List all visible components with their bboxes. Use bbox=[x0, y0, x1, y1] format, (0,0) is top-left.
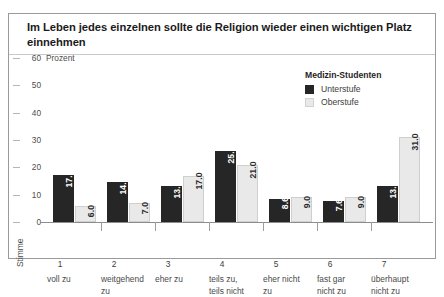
bar-value-label: 13.0 bbox=[172, 182, 182, 199]
legend-label-unterstufe: Unterstufe bbox=[321, 84, 361, 94]
bar-value-label: 17.3 bbox=[64, 170, 74, 187]
bar-value-label: 6.0 bbox=[86, 204, 96, 216]
bar-unterstufe-5[interactable]: 8.6 bbox=[269, 199, 290, 223]
x-axis-category-label: weitgehend zu bbox=[101, 273, 155, 297]
bar-value-label: 25.9 bbox=[226, 147, 236, 164]
x-axis-labels: Stimme 1voll zu2weitgehend zu3eher zu4te… bbox=[9, 259, 437, 260]
legend-item-oberstufe: Oberstufe bbox=[305, 97, 431, 107]
chart-title-block: Im Leben jedes einzelnen sollte die Reli… bbox=[9, 14, 435, 55]
x-axis-category-number: 7 bbox=[371, 259, 397, 270]
bar-oberstufe-2[interactable]: 7.0 bbox=[129, 203, 150, 222]
y-axis-tick-mark bbox=[13, 85, 20, 86]
cropped-caption-above-figure bbox=[40, 1, 300, 8]
bar-oberstufe-1[interactable]: 6.0 bbox=[75, 206, 96, 222]
x-axis-category-number: 6 bbox=[317, 259, 343, 270]
x-axis-category-1: 1voll zu bbox=[47, 259, 101, 285]
bar-unterstufe-1[interactable]: 17.3 bbox=[53, 175, 74, 222]
plot-area: 0102030405060 Prozent 17.36.014.67.013.0… bbox=[9, 58, 437, 259]
x-axis-category-4: 4teils zu, teils nicht bbox=[209, 259, 263, 297]
x-axis-separator-tick bbox=[317, 222, 318, 231]
x-axis-separator-tick bbox=[209, 222, 210, 231]
x-axis-separator-tick bbox=[371, 222, 372, 231]
bar-value-label: 14.6 bbox=[118, 178, 128, 195]
bar-group: 25.921.0 bbox=[215, 58, 258, 222]
page-title: Im Leben jedes einzelnen sollte die Reli… bbox=[27, 20, 421, 49]
chart-legend: Medizin-Studenten Unterstufe Oberstufe bbox=[305, 70, 431, 110]
x-axis-category-2: 2weitgehend zu bbox=[101, 259, 155, 297]
x-axis-category-label: fast gar nicht zu bbox=[317, 273, 371, 297]
x-axis-category-label: teils zu, teils nicht bbox=[209, 273, 263, 297]
bar-group: 13.017.0 bbox=[161, 58, 204, 222]
bar-value-label: 31.0 bbox=[410, 134, 420, 151]
bar-value-label: 13.0 bbox=[388, 182, 398, 199]
bar-unterstufe-3[interactable]: 13.0 bbox=[161, 186, 182, 222]
bar-unterstufe-2[interactable]: 14.6 bbox=[107, 182, 128, 222]
legend-label-oberstufe: Oberstufe bbox=[321, 97, 359, 107]
bar-value-label: 7.6 bbox=[334, 199, 344, 211]
x-axis-category-number: 4 bbox=[209, 259, 235, 270]
bar-oberstufe-6[interactable]: 9.0 bbox=[345, 197, 366, 222]
bar-oberstufe-7[interactable]: 31.0 bbox=[399, 137, 420, 222]
x-axis-baseline bbox=[41, 222, 433, 223]
x-axis-separator-tick bbox=[155, 222, 156, 231]
x-axis-category-3: 3eher zu bbox=[155, 259, 209, 285]
bar-unterstufe-6[interactable]: 7.6 bbox=[323, 201, 344, 222]
x-axis-separator-tick bbox=[263, 222, 264, 231]
bar-value-label: 8.6 bbox=[280, 196, 290, 208]
x-axis-category-6: 6fast gar nicht zu bbox=[317, 259, 371, 297]
x-axis-category-label: voll zu bbox=[47, 273, 101, 285]
y-axis-tick-mark bbox=[13, 140, 20, 141]
x-axis-category-label: eher zu bbox=[155, 273, 209, 285]
x-axis-category-number: 2 bbox=[101, 259, 127, 270]
x-axis-title: Stimme bbox=[15, 239, 25, 267]
y-axis-tick-mark bbox=[13, 58, 20, 59]
y-axis-tick-mark bbox=[13, 222, 20, 223]
x-axis-category-5: 5eher nicht zu bbox=[263, 259, 317, 297]
bar-value-label: 9.0 bbox=[356, 196, 366, 208]
bar-value-label: 21.0 bbox=[248, 161, 258, 178]
x-axis-category-7: 7überhaupt nicht zu bbox=[371, 259, 425, 297]
x-axis-separator-tick bbox=[101, 222, 102, 231]
chart-figure: Im Leben jedes einzelnen sollte die Reli… bbox=[8, 13, 436, 259]
bar-unterstufe-7[interactable]: 13.0 bbox=[377, 186, 398, 222]
legend-swatch-icon-oberstufe bbox=[305, 98, 314, 107]
bar-value-label: 9.0 bbox=[302, 196, 312, 208]
bar-value-label: 17.0 bbox=[194, 172, 204, 189]
bar-oberstufe-5[interactable]: 9.0 bbox=[291, 197, 312, 222]
bar-oberstufe-4[interactable]: 21.0 bbox=[237, 165, 258, 222]
y-axis-tick-mark bbox=[13, 167, 20, 168]
x-axis-category-number: 5 bbox=[263, 259, 289, 270]
bar-unterstufe-4[interactable]: 25.9 bbox=[215, 151, 236, 222]
bar-value-label: 7.0 bbox=[140, 202, 150, 214]
bar-oberstufe-3[interactable]: 17.0 bbox=[183, 176, 204, 222]
legend-swatch-icon-unterstufe bbox=[305, 85, 314, 94]
x-axis-category-number: 3 bbox=[155, 259, 181, 270]
legend-item-unterstufe: Unterstufe bbox=[305, 84, 431, 94]
y-axis-tick-mark bbox=[13, 113, 20, 114]
bar-group: 17.36.0 bbox=[53, 58, 96, 222]
bar-group: 14.67.0 bbox=[107, 58, 150, 222]
x-axis-category-number: 1 bbox=[47, 259, 73, 270]
x-axis-category-label: überhaupt nicht zu bbox=[371, 273, 425, 297]
x-axis-category-label: eher nicht zu bbox=[263, 273, 317, 297]
legend-title: Medizin-Studenten bbox=[305, 70, 431, 80]
y-axis-tick-mark bbox=[13, 195, 20, 196]
